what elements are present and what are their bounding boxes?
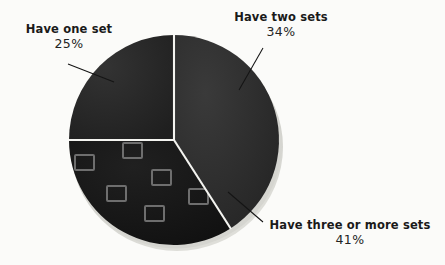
chart-figure: Have one set 25% Have two sets 34% Have … (0, 0, 445, 265)
pie-label-have-one-set: Have one set 25% (8, 22, 130, 51)
pie-label-have-one-set-percent: 25% (8, 37, 130, 51)
pie-label-have-two-sets-text: Have two sets (234, 10, 328, 24)
pie-label-have-two-sets-percent: 34% (218, 25, 344, 39)
pie-label-have-one-set-text: Have one set (26, 22, 113, 36)
pie-label-have-three-or-more-sets: Have three or more sets 41% (258, 218, 442, 247)
pie-label-have-two-sets: Have two sets 34% (218, 10, 344, 39)
pie-label-have-three-or-more-sets-percent: 41% (258, 233, 442, 247)
pie-label-have-three-or-more-sets-text: Have three or more sets (269, 218, 430, 232)
